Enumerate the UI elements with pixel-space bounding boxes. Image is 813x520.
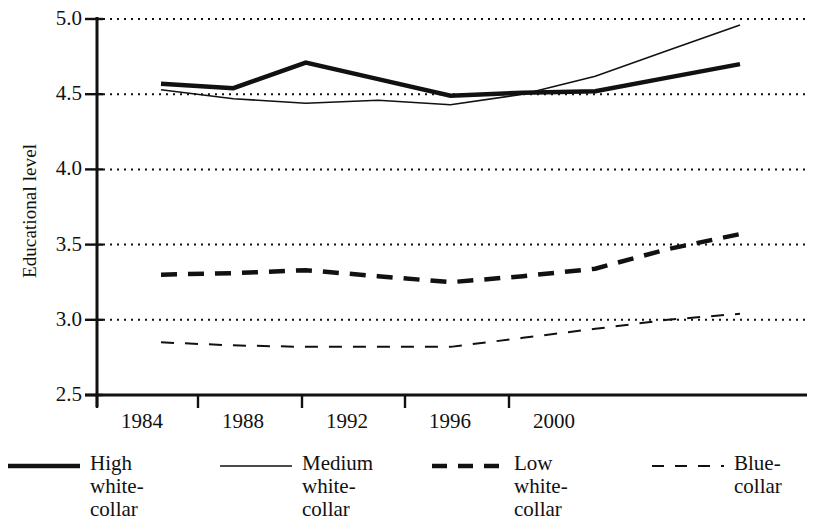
series-line-2 <box>161 234 740 282</box>
legend-label: High white- collar <box>90 452 144 520</box>
chart-legend: High white- collarMedium white- collarLo… <box>0 452 813 498</box>
legend-line-sample-icon <box>218 461 294 471</box>
legend-line-sample-icon <box>430 461 506 471</box>
series-line-1 <box>161 25 740 105</box>
legend-line-sample-icon <box>650 461 726 471</box>
legend-line-sample-icon <box>6 461 82 471</box>
series-line-3 <box>161 314 740 347</box>
legend-label: Low white- collar <box>514 452 568 520</box>
legend-label: Blue- collar <box>734 452 782 498</box>
legend-label: Medium white- collar <box>302 452 373 520</box>
series-line-0 <box>161 63 740 96</box>
